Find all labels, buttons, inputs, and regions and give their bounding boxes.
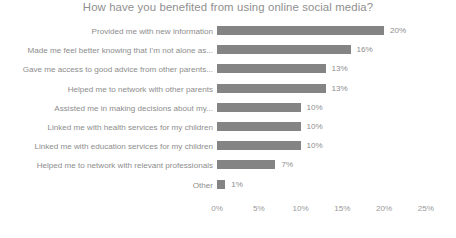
bar-value-label: 10% (307, 121, 323, 132)
bar-category-label: Linked me with health services for my ch… (0, 122, 213, 133)
bar-category-label: Linked me with education services for my… (0, 141, 213, 152)
bar-row[interactable]: Linked me with education services for my… (0, 140, 456, 159)
bar-fill[interactable] (217, 64, 326, 73)
bar-track (217, 122, 301, 131)
bar-category-label: Helped me to network with relevant profe… (0, 160, 213, 171)
bar-track (217, 45, 351, 54)
bar-fill[interactable] (217, 180, 225, 189)
bar-track (217, 160, 275, 169)
bar-category-label: Helped me to network with other parents (0, 84, 213, 95)
bar-row[interactable]: Helped me to network with other parents1… (0, 83, 456, 102)
bar-row[interactable]: Provided me with new information20% (0, 25, 456, 44)
chart-title: How have you benefited from using online… (0, 1, 456, 13)
bar-chart: How have you benefited from using online… (0, 0, 456, 238)
bar-track (217, 103, 301, 112)
bar-row[interactable]: Made me feel better knowing that I'm not… (0, 44, 456, 63)
bar-track (217, 180, 225, 189)
plot-area: Provided me with new information20%Made … (0, 25, 456, 195)
x-axis-tick-label: 10% (292, 203, 308, 214)
bar-category-label: Assisted me in making decisions about my… (0, 103, 213, 114)
bar-value-label: 20% (390, 25, 406, 36)
bar-row[interactable]: Helped me to network with relevant profe… (0, 159, 456, 178)
x-axis-tick-label: 20% (376, 203, 392, 214)
bar-row[interactable]: Gave me access to good advice from other… (0, 63, 456, 82)
bar-track (217, 26, 384, 35)
bar-value-label: 13% (332, 83, 348, 94)
bar-row[interactable]: Linked me with health services for my ch… (0, 121, 456, 140)
bar-fill[interactable] (217, 160, 275, 169)
bar-value-label: 7% (281, 159, 293, 170)
bar-category-label: Provided me with new information (0, 26, 213, 37)
bar-row[interactable]: Assisted me in making decisions about my… (0, 102, 456, 121)
bar-fill[interactable] (217, 45, 351, 54)
x-axis-tick-label: 25% (418, 203, 434, 214)
x-axis-tick-label: 0% (211, 203, 223, 214)
bar-value-label: 10% (307, 140, 323, 151)
bar-fill[interactable] (217, 84, 326, 93)
bar-track (217, 64, 326, 73)
bar-value-label: 16% (357, 44, 373, 55)
bar-value-label: 10% (307, 102, 323, 113)
bar-row[interactable]: Other1% (0, 179, 456, 198)
x-axis: 0%5%10%15%20%25% (0, 203, 456, 217)
bar-track (217, 141, 301, 150)
x-axis-tick-label: 5% (253, 203, 265, 214)
bar-fill[interactable] (217, 26, 384, 35)
bar-fill[interactable] (217, 141, 301, 150)
bar-category-label: Gave me access to good advice from other… (0, 64, 213, 75)
x-axis-tick-label: 15% (334, 203, 350, 214)
bar-fill[interactable] (217, 122, 301, 131)
bar-track (217, 84, 326, 93)
bar-fill[interactable] (217, 103, 301, 112)
bar-value-label: 13% (332, 63, 348, 74)
bar-value-label: 1% (231, 179, 243, 190)
bar-category-label: Made me feel better knowing that I'm not… (0, 45, 213, 56)
bar-category-label: Other (0, 180, 213, 191)
